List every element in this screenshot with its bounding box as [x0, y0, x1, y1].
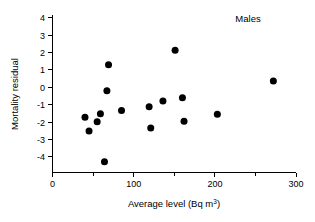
data-point	[103, 87, 110, 94]
data-point	[147, 125, 154, 132]
y-tick-label-3: 3	[40, 31, 45, 41]
x-axis-title: Average level (Bq m3)	[128, 198, 220, 210]
data-point	[105, 61, 112, 68]
data-point	[214, 111, 221, 118]
y-tick-label-neg3: -3	[37, 135, 45, 145]
plot-canvas: 4 3 2 1 0 -1 -2 -3 -4 0 100	[0, 0, 315, 222]
data-point	[81, 114, 88, 121]
data-point	[159, 98, 166, 105]
series-annotation-males: Males	[235, 13, 261, 24]
y-tick-label-neg1: -1	[37, 100, 45, 110]
data-point	[118, 107, 125, 114]
y-tick-label-neg4: -4	[37, 152, 45, 162]
y-tick-label-2: 2	[40, 48, 45, 58]
y-tick-label-1: 1	[40, 65, 45, 75]
data-point	[146, 103, 153, 110]
x-tick-label-300: 300	[289, 179, 304, 189]
data-point	[86, 128, 93, 135]
data-point	[181, 118, 188, 125]
data-point-series	[81, 47, 276, 165]
data-point	[179, 94, 186, 101]
y-axis-ticks: 4 3 2 1 0 -1 -2 -3 -4	[37, 13, 53, 162]
y-axis-title: Mortality residual	[9, 58, 20, 130]
x-axis-title-tail: )	[217, 198, 220, 209]
y-tick-label-4: 4	[40, 13, 45, 23]
x-tick-label-100: 100	[126, 179, 141, 189]
x-tick-label-0: 0	[50, 179, 55, 189]
data-point	[94, 118, 101, 125]
y-tick-label-neg2: -2	[37, 118, 45, 128]
x-tick-label-200: 200	[207, 179, 222, 189]
data-point	[101, 158, 108, 165]
data-point	[97, 110, 104, 117]
data-point	[270, 78, 277, 85]
y-tick-label-0: 0	[40, 83, 45, 93]
scatter-plot-figure: 4 3 2 1 0 -1 -2 -3 -4 0 100	[0, 0, 315, 222]
data-point	[172, 47, 179, 54]
x-axis-ticks: 0 100 200 300	[50, 173, 304, 190]
x-axis-title-main: Average level (Bq m	[128, 198, 213, 209]
